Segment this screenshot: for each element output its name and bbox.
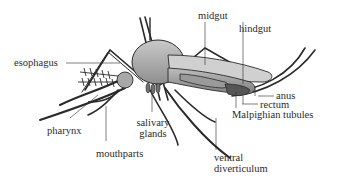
label-esophagus: esophagus [14, 57, 58, 68]
mosquito-anatomy-diagram: esophagus midgut hindgut anus rectum Mal… [0, 0, 343, 181]
label-mouthparts: mouthparts [96, 148, 143, 159]
label-ventral-diverticulum-line2: diverticulum [214, 163, 268, 174]
label-ventral-diverticulum-line1: ventral [214, 152, 268, 163]
label-malpighian-tubules: Malpighian tubules [232, 109, 313, 120]
head [117, 72, 133, 88]
label-ventral-diverticulum: ventral diverticulum [214, 152, 268, 174]
label-hindgut: hindgut [239, 23, 271, 34]
label-salivary-glands: salivary glands [131, 117, 175, 139]
salivary-glands-organ [146, 83, 160, 94]
label-salivary-glands-line1: salivary [131, 117, 175, 128]
label-salivary-glands-line2: glands [131, 128, 175, 139]
label-midgut: midgut [198, 10, 228, 21]
label-pharynx: pharynx [47, 125, 81, 136]
legs [40, 17, 315, 158]
